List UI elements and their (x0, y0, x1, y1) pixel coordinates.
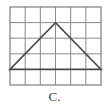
grid-triangle-figure (0, 0, 109, 107)
figure-container: C. (0, 0, 109, 107)
